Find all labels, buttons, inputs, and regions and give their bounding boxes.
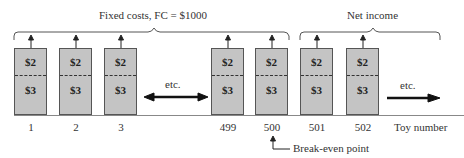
fixed-contribution-value: $3 [256, 84, 287, 96]
variable-cost-value: $2 [301, 56, 332, 68]
net-income-label: Net income [347, 9, 398, 21]
variable-cost-value: $2 [212, 56, 243, 68]
variable-cost-value: $2 [347, 56, 378, 68]
toy-number-2: 2 [59, 121, 93, 133]
dashed-divider [105, 75, 136, 76]
break-even-pointer [271, 136, 291, 149]
double-arrow-icon [144, 93, 208, 101]
toy-number-500: 500 [255, 121, 289, 133]
variable-cost-value: $2 [15, 56, 46, 68]
toy-number-1: 1 [14, 121, 48, 133]
toy-box-1: $2 $3 [14, 48, 47, 115]
net-income-brace [300, 28, 440, 40]
right-arrow-icon [387, 94, 440, 102]
toy-box-3: $2 $3 [104, 48, 137, 115]
etc-left-label: etc. [165, 78, 181, 90]
fixed-costs-label: Fixed costs, FC = $1000 [99, 9, 207, 21]
up-arrows [29, 35, 366, 48]
toy-number-502: 502 [346, 121, 380, 133]
net-income-value: $3 [347, 84, 378, 96]
dashed-divider [347, 75, 378, 76]
fixed-costs-brace [14, 28, 289, 40]
variable-cost-value: $2 [60, 56, 91, 68]
variable-cost-value: $2 [256, 56, 287, 68]
fixed-contribution-value: $3 [105, 84, 136, 96]
axis-label: Toy number [394, 121, 447, 133]
toy-number-3: 3 [104, 121, 138, 133]
toy-number-499: 499 [211, 121, 245, 133]
dashed-divider [301, 75, 332, 76]
net-income-value: $3 [301, 84, 332, 96]
variable-cost-value: $2 [105, 56, 136, 68]
fixed-contribution-value: $3 [60, 84, 91, 96]
fixed-contribution-value: $3 [15, 84, 46, 96]
dashed-divider [256, 75, 287, 76]
break-even-label: Break-even point [293, 142, 369, 154]
dashed-divider [15, 75, 46, 76]
toy-box-502: $2 $3 [346, 48, 379, 115]
toy-box-500: $2 $3 [255, 48, 288, 115]
toy-box-499: $2 $3 [211, 48, 244, 115]
toy-box-2: $2 $3 [59, 48, 92, 115]
etc-right-label: etc. [400, 79, 416, 91]
dashed-divider [60, 75, 91, 76]
toy-box-501: $2 $3 [300, 48, 333, 115]
toy-number-501: 501 [300, 121, 334, 133]
fixed-contribution-value: $3 [212, 84, 243, 96]
dashed-divider [212, 75, 243, 76]
